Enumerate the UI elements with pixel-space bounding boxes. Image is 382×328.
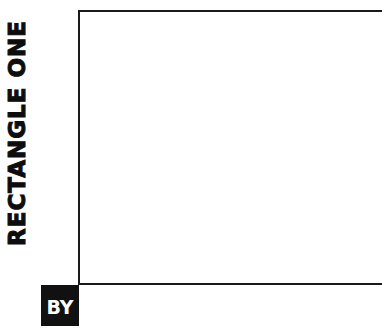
vertical-title: RECTANGLE ONE	[6, 20, 29, 246]
by-badge-label: BY	[46, 296, 73, 318]
rectangle-frame	[78, 10, 382, 285]
by-badge: BY	[41, 285, 79, 326]
